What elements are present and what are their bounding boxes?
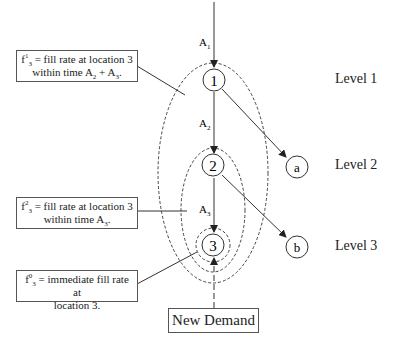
edge-label-a3: A3 xyxy=(199,203,211,218)
note-fill-rate-level2: f23 = fill rate at location 3 within tim… xyxy=(16,197,138,229)
note3-connector xyxy=(137,252,197,284)
node-a-label: a xyxy=(294,160,300,175)
level-2-label: Level 2 xyxy=(335,157,377,173)
edge-label-a1: A1 xyxy=(199,36,211,51)
level-1-label: Level 1 xyxy=(335,71,377,87)
level-3-label: Level 3 xyxy=(335,238,377,254)
note-fill-rate-level1: f13 = fill rate at location 3 within tim… xyxy=(16,50,138,82)
new-demand-box: New Demand xyxy=(168,308,259,333)
node-b-label: b xyxy=(294,240,301,255)
node-2-label: 2 xyxy=(209,158,217,174)
edge-label-a2: A2 xyxy=(199,117,211,132)
edge-2-to-b xyxy=(222,175,286,237)
note-immediate-fill-rate: f03 = immediate fill rate at location 3. xyxy=(16,270,138,302)
note1-connector xyxy=(137,66,185,95)
node-3-label: 3 xyxy=(209,238,217,254)
node-1-label: 1 xyxy=(210,73,218,89)
